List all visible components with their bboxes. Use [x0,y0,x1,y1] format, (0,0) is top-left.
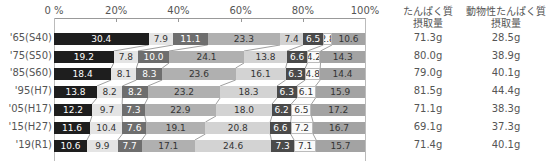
protein-intake-value: 79.0g [398,67,458,78]
bar-segment: 18.0 [216,104,272,116]
bar-segment: 14.3 [320,51,364,63]
stacked-bar: 19.27.810.024.113.86.64.214.3 [54,51,365,63]
bar-segment: 4.2 [307,51,320,63]
stacked-bar: 10.69.97.717.124.67.37.115.7 [54,140,365,152]
bar-segment: 7.6 [122,122,146,134]
bar-segment: 23.6 [162,68,235,80]
animal-protein-intake-value: 28.5g [462,32,550,43]
animal-protein-intake-value: 40.1g [462,139,550,150]
category-label: '15(H27) [0,121,52,132]
bar-segment: 6.5 [303,33,323,45]
bar-segment: 10.6 [332,33,365,45]
bar-segment: 7.8 [114,51,138,63]
bar-segment: 7.9 [149,33,174,45]
bar-segment: 30.4 [54,33,149,45]
category-label: '95(H7) [0,85,52,96]
protein-intake-value: 80.0g [398,50,458,61]
bar-segment: 6.1 [297,86,316,98]
protein-header-line2: 摂取量 [398,18,458,30]
bar-segment: 2.8 [323,33,332,45]
category-label: '05(H17) [0,103,52,114]
category-label: '75(S50) [0,50,52,61]
bar-segment: 14.4 [320,68,365,80]
bar-segment: 16.1 [236,68,286,80]
stacked-bar: 12.29.77.322.918.06.26.517.2 [54,104,365,116]
bar-segment: 13.8 [54,86,97,98]
bar-segment: 6.3 [286,68,306,80]
bar-segment: 19.1 [146,122,205,134]
category-label: '85(S60) [0,67,52,78]
bar-segment: 7.2 [291,122,313,134]
animal-protein-intake-value: 40.1g [462,67,550,78]
stacked-bar: 30.47.911.123.37.46.52.810.6 [54,33,365,45]
bar-segment: 10.6 [54,140,87,152]
bar-segment: 10.4 [90,122,122,134]
bar-segment: 24.1 [169,51,244,63]
bar-segment: 18.4 [54,68,111,80]
bar-segment: 8.3 [136,68,162,80]
bar-segment: 6.5 [291,104,311,116]
bar-segment: 6.3 [277,86,297,98]
bar-segment: 18.3 [220,86,277,98]
bar-segment: 24.6 [195,140,272,152]
bar-segment: 16.7 [313,122,365,134]
bar-segment: 12.2 [54,104,92,116]
protein-intake-header: たんぱく質 摂取量 [398,6,458,30]
stacked-bar: 18.48.18.323.616.16.34.814.4 [54,68,365,80]
bar-segment: 17.1 [142,140,195,152]
bar-segment: 15.9 [316,86,365,98]
protein-intake-value: 81.5g [398,85,458,96]
protein-intake-value: 71.4g [398,139,458,150]
protein-header-line1: たんぱく質 [398,6,458,18]
bar-segment: 8.1 [111,68,136,80]
stacked-bar: 11.610.47.619.120.86.67.216.7 [54,122,365,134]
bar-segment: 13.8 [244,51,287,63]
protein-intake-value: 71.3g [398,32,458,43]
animal-protein-header-line2: 摂取量 [462,18,550,30]
bar-segment: 8.2 [97,86,123,98]
category-label: '19(R1) [0,139,52,150]
protein-intake-value: 71.1g [398,103,458,114]
bar-segment: 7.3 [271,140,294,152]
bar-segment: 6.6 [287,51,308,63]
bar-segment: 22.9 [145,104,216,116]
bar-segment: 15.7 [316,140,365,152]
protein-intake-value: 69.1g [398,121,458,132]
category-label: '65(S40) [0,32,52,43]
animal-protein-header-line1: 動物性たんぱく質 [462,6,550,18]
bar-segment: 7.4 [280,33,303,45]
bar-segment: 7.7 [118,140,142,152]
animal-protein-intake-value: 38.9g [462,50,550,61]
animal-protein-intake-header: 動物性たんぱく質 摂取量 [462,6,550,30]
bar-segment: 6.6 [270,122,291,134]
bar-segment: 20.8 [205,122,270,134]
bar-segment: 23.2 [148,86,220,98]
bar-segment: 9.9 [87,140,118,152]
bar-segment: 19.2 [54,51,114,63]
bar-segment: 23.3 [208,33,280,45]
stacked-bar: 13.88.28.223.218.36.36.115.9 [54,86,365,98]
bar-segment: 7.1 [294,140,316,152]
animal-protein-intake-value: 38.3g [462,103,550,114]
bar-segment: 10.0 [138,51,169,63]
bar-segment: 9.7 [92,104,122,116]
animal-protein-intake-value: 37.3g [462,121,550,132]
bar-segment: 11.1 [173,33,208,45]
bar-segment: 6.2 [272,104,291,116]
bar-segment: 8.2 [122,86,148,98]
bar-segment: 17.2 [311,104,364,116]
bar-segment: 11.6 [54,122,90,134]
bar-segment: 7.3 [122,104,145,116]
animal-protein-intake-value: 44.4g [462,85,550,96]
bar-segment: 4.8 [305,68,320,80]
